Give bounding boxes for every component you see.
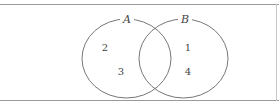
set-a-element: 3 <box>118 66 124 77</box>
set-a-circle <box>82 19 171 98</box>
set-b-element: 4 <box>185 66 191 77</box>
set-b-label: B <box>180 13 189 26</box>
venn-diagram: A B 2 3 1 4 <box>0 0 279 111</box>
set-b-circle <box>139 19 228 98</box>
set-a-label: A <box>122 13 131 26</box>
set-b-element: 1 <box>185 42 191 53</box>
set-a-element: 2 <box>102 42 108 53</box>
